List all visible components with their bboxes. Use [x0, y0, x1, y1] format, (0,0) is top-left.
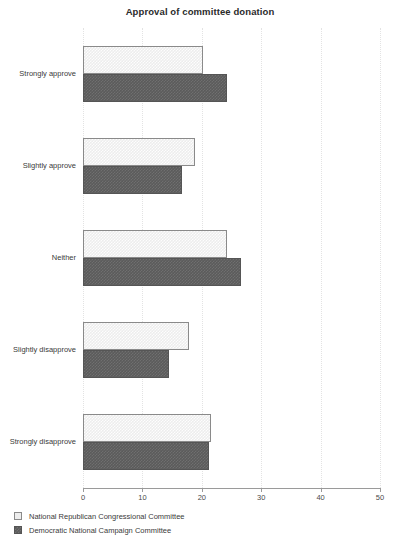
bar-group	[83, 322, 380, 378]
x-axis-line	[83, 488, 380, 489]
bar-group	[83, 230, 380, 286]
chart-title: Approval of committee donation	[0, 6, 400, 17]
x-tick	[261, 488, 262, 492]
bar[interactable]	[83, 414, 211, 442]
y-tick-label: Slightly approve	[23, 161, 76, 170]
x-tick	[142, 488, 143, 492]
chart-legend: National Republican Congressional Commit…	[14, 509, 384, 537]
bar-group	[83, 46, 380, 102]
bars-layer	[83, 28, 380, 488]
x-tick-label: 50	[376, 493, 384, 502]
legend-item[interactable]: Democratic National Campaign Committee	[14, 523, 384, 537]
y-tick-label: Neither	[52, 253, 76, 262]
y-tick-label: Strongly disapprove	[10, 437, 76, 446]
x-tick	[321, 488, 322, 492]
x-tick	[380, 488, 381, 492]
bar[interactable]	[83, 138, 195, 166]
legend-swatch-icon	[14, 512, 22, 520]
gridline	[380, 28, 382, 488]
bar[interactable]	[83, 74, 227, 102]
bar[interactable]	[83, 350, 169, 378]
bar-chart: Approval of committee donation Strongly …	[0, 0, 400, 546]
x-tick-label: 0	[81, 493, 85, 502]
legend-item[interactable]: National Republican Congressional Commit…	[14, 509, 384, 523]
x-tick	[83, 488, 84, 492]
bar-group	[83, 138, 380, 194]
x-tick-label: 20	[198, 493, 206, 502]
x-tick-label: 10	[138, 493, 146, 502]
y-tick-label: Strongly approve	[19, 69, 76, 78]
legend-swatch-icon	[14, 526, 22, 534]
x-tick-label: 40	[316, 493, 324, 502]
y-axis-labels: Strongly approveSlightly approveNeitherS…	[0, 28, 76, 488]
plot-area	[83, 28, 380, 488]
bar[interactable]	[83, 166, 182, 194]
y-tick-label: Slightly disapprove	[13, 345, 76, 354]
bar[interactable]	[83, 230, 227, 258]
legend-label: Democratic National Campaign Committee	[29, 526, 171, 535]
bar[interactable]	[83, 322, 189, 350]
x-tick	[202, 488, 203, 492]
bar[interactable]	[83, 46, 203, 74]
bar[interactable]	[83, 442, 209, 470]
bar-group	[83, 414, 380, 470]
bar[interactable]	[83, 258, 241, 286]
x-tick-label: 30	[257, 493, 265, 502]
legend-label: National Republican Congressional Commit…	[29, 512, 185, 521]
